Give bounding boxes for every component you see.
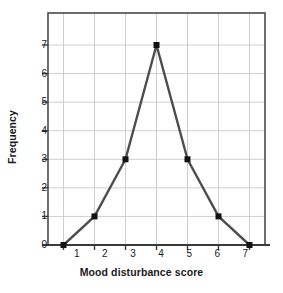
- x-axis-title: Mood disturbance score: [0, 266, 283, 278]
- x-tick-label-5: 5: [179, 248, 199, 259]
- y-tick-label-1: 1: [31, 210, 47, 221]
- data-point: [216, 213, 222, 219]
- y-tick-label-2: 2: [31, 182, 47, 193]
- data-point: [123, 156, 129, 162]
- chart-container: 7 6 5 4 3 2 1 0 1 2 3 4 5 6 7 Mood distu…: [0, 0, 283, 293]
- x-tick-label-6: 6: [207, 248, 227, 259]
- data-point: [185, 156, 191, 162]
- data-point: [154, 42, 160, 48]
- y-tick-label-7: 7: [31, 39, 47, 50]
- x-tick-label-7: 7: [235, 248, 255, 259]
- y-tick-label-3: 3: [31, 153, 47, 164]
- y-tick-label-0: 0: [31, 239, 47, 250]
- x-tick-label-3: 3: [123, 248, 143, 259]
- data-point: [92, 213, 98, 219]
- x-tick-label-1: 1: [67, 248, 87, 259]
- y-tick-label-6: 6: [31, 68, 47, 79]
- x-tick-label-4: 4: [151, 248, 171, 259]
- data-point: [61, 242, 67, 248]
- y-tick-label-4: 4: [31, 125, 47, 136]
- x-tick-label-2: 2: [95, 248, 115, 259]
- y-axis-title: Frequency: [6, 87, 18, 187]
- y-tick-label-5: 5: [31, 96, 47, 107]
